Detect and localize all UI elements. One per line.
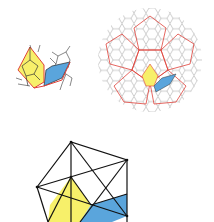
local-patch-panel xyxy=(16,45,72,90)
polyhedron-projection-panel xyxy=(36,141,129,222)
yellow-tile xyxy=(18,47,44,88)
global-tiling-panel xyxy=(98,8,202,112)
diagram-canvas xyxy=(0,0,214,222)
